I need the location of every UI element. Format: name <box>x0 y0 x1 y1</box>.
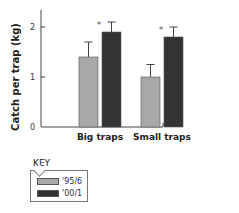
y-axis-label: Catch per trap (kg) <box>10 23 21 131</box>
legend-swatch <box>37 190 59 197</box>
bar <box>102 32 121 127</box>
legend-item-00-1: '00/1 <box>37 189 82 197</box>
x-category-label: Big traps <box>77 132 123 142</box>
bar <box>164 37 183 127</box>
y-tick-label: 2 <box>30 23 35 32</box>
x-category-label: Small traps <box>133 132 191 142</box>
significance-asterisk: * <box>97 20 102 30</box>
bar <box>141 77 160 127</box>
legend-label: '95/6 <box>62 177 82 186</box>
y-tick-label: 1 <box>30 73 35 82</box>
legend-label: '00/1 <box>62 189 82 198</box>
legend-swatch <box>37 178 59 185</box>
bar <box>79 57 98 127</box>
y-tick-label: 0 <box>30 123 35 132</box>
significance-asterisk: * <box>159 25 164 35</box>
legend-item-95-6: '95/6 <box>37 177 82 185</box>
bar-chart: 012Catch per trap (kg)*Big traps*Small t… <box>0 0 239 150</box>
